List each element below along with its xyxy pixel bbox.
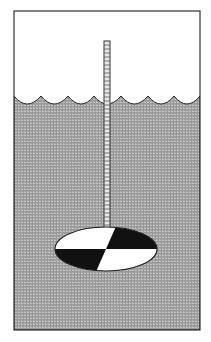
secchi-disk-diagram — [0, 0, 211, 342]
graduated-rod — [104, 41, 110, 251]
